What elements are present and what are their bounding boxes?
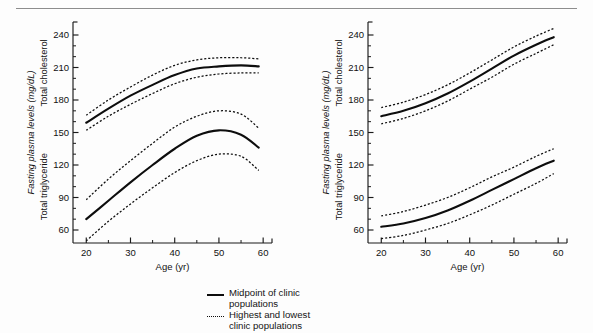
y-tick-label: 180 <box>348 94 364 105</box>
series-line-bound <box>381 149 553 216</box>
legend-range-line1: Highest and lowest <box>229 309 310 320</box>
series-line-bound <box>86 73 258 130</box>
y-tick-label: 60 <box>58 224 69 235</box>
x-tick-label: 30 <box>125 247 136 258</box>
x-tick-label: 60 <box>553 247 564 258</box>
legend-item-midpoint-label: Midpoint of clinic populations <box>229 288 300 309</box>
figure-container: 60901201501802102402030405060Age (yr)Fas… <box>0 0 593 333</box>
series-line-midpoint <box>86 65 258 122</box>
chart-panel-left: 60901201501802102402030405060Age (yr)Fas… <box>0 0 300 280</box>
x-tick-label: 60 <box>258 247 269 258</box>
legend-midpoint-line1: Midpoint of clinic <box>229 287 300 298</box>
x-axis-title: Age (yr) <box>451 261 485 272</box>
chart-right-svg: 60901201501802102402030405060Age (yr)Fas… <box>290 0 593 280</box>
x-tick-label: 20 <box>81 247 92 258</box>
y-tick-label: 150 <box>53 127 69 138</box>
y-tick-label: 240 <box>53 29 69 40</box>
y-axis-title-cholesterol: Total cholesterol <box>334 39 344 106</box>
x-tick-label: 30 <box>420 247 431 258</box>
y-tick-label: 210 <box>53 62 69 73</box>
y-tick-label: 90 <box>353 192 364 203</box>
dashed-line-marker <box>207 310 224 323</box>
y-tick-label: 90 <box>58 192 69 203</box>
chart-panel-right: 60901201501802102402030405060Age (yr)Fas… <box>290 0 593 280</box>
x-tick-label: 50 <box>214 247 225 258</box>
series-line-bound <box>381 45 553 124</box>
x-axis-title: Age (yr) <box>156 261 190 272</box>
legend-midpoint-line2: populations <box>229 298 278 309</box>
y-axis-title-units: Fasting plasma levels (mg/dL) <box>321 70 331 194</box>
x-tick-label: 40 <box>169 247 180 258</box>
y-tick-label: 150 <box>348 127 364 138</box>
series-line-bound <box>381 174 553 239</box>
legend-item-midpoint: Midpoint of clinic populations <box>207 288 437 309</box>
series-line-bound <box>86 111 258 200</box>
series-line-midpoint <box>86 130 258 219</box>
legend-item-range-label: Highest and lowest clinic populations <box>229 310 310 331</box>
x-tick-label: 50 <box>509 247 520 258</box>
y-tick-label: 240 <box>348 29 364 40</box>
solid-line-marker <box>207 288 224 301</box>
series-line-bound <box>381 29 553 108</box>
legend-item-range: Highest and lowest clinic populations <box>207 310 437 331</box>
series-line-midpoint <box>381 37 553 116</box>
y-axis-title-triglyceride: Total triglyceride <box>39 153 49 220</box>
series-line-midpoint <box>381 161 553 227</box>
x-tick-label: 20 <box>376 247 387 258</box>
chart-left-svg: 60901201501802102402030405060Age (yr)Fas… <box>0 0 300 280</box>
legend-range-line2: clinic populations <box>229 320 302 331</box>
y-tick-label: 120 <box>348 159 364 170</box>
y-axis-title-units: Fasting plasma levels (mg/dL) <box>26 70 36 194</box>
y-axis-title-cholesterol: Total cholesterol <box>39 39 49 106</box>
chart-legend: Midpoint of clinic populations Highest a… <box>207 288 437 332</box>
y-tick-label: 60 <box>353 224 364 235</box>
y-tick-label: 180 <box>53 94 69 105</box>
y-tick-label: 120 <box>53 159 69 170</box>
x-tick-label: 40 <box>464 247 475 258</box>
y-axis-title-triglyceride: Total triglyceride <box>334 153 344 220</box>
y-tick-label: 210 <box>348 62 364 73</box>
